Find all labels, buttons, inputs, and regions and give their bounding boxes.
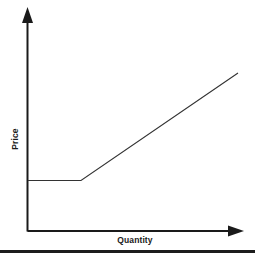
supply-curve-figure xyxy=(0,0,255,264)
y-axis-arrow-icon xyxy=(22,7,33,23)
y-axis-label: Price xyxy=(0,124,35,154)
x-axis-arrow-icon xyxy=(228,226,244,237)
supply-curve-line xyxy=(28,73,238,181)
x-axis-label: Quantity xyxy=(105,235,165,245)
chart-screenshot: Price Quantity xyxy=(0,0,255,264)
bottom-divider-rule xyxy=(0,250,255,253)
